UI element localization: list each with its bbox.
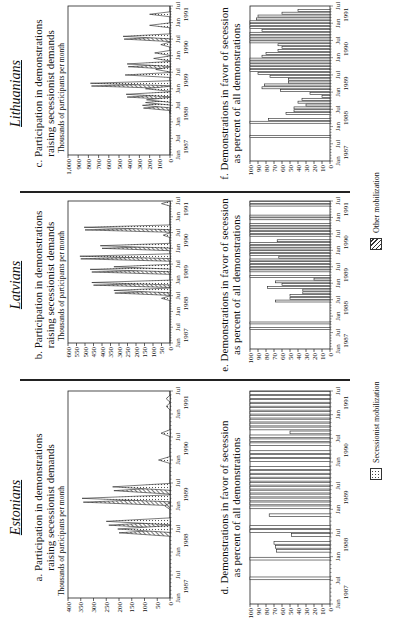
x-tick-label: Jan (334, 599, 342, 609)
percent-bar (250, 403, 330, 406)
x-year-label: 1991 (182, 7, 190, 22)
title-line: b. Participation in demonstrations (32, 195, 44, 375)
secessionist-peak (150, 23, 170, 28)
percent-bar (250, 451, 330, 454)
percent-bar (250, 399, 330, 402)
x-year-label: 1987 (342, 585, 350, 600)
percent-bar (276, 545, 330, 548)
chart-e: 0102030405060708090100JanJulJanJulJanJul… (244, 195, 354, 375)
x-tick-label: Jul (334, 230, 342, 238)
y-tick-label: 300 (116, 347, 124, 358)
plot-frame (68, 391, 170, 598)
x-tick-label: Jul (174, 228, 182, 236)
percent-bar (250, 61, 330, 63)
percent-bar (250, 67, 330, 69)
y-tick-label: 150 (141, 347, 149, 358)
secessionist-peak (154, 56, 170, 61)
percent-bar (250, 474, 330, 477)
legend-item-secessionist: Secessionist mobilization (370, 381, 382, 480)
x-tick-label: Jan (174, 243, 182, 253)
y-tick-label: 250 (103, 602, 111, 613)
y-tick-label: 300 (136, 159, 144, 170)
y-tick-label: 30 (303, 353, 311, 361)
x-tick-label: Jul (334, 36, 342, 44)
y-tick-label: 70 (271, 608, 279, 616)
x-year-label: 1988 (182, 296, 190, 311)
percent-bar (294, 110, 330, 112)
x-tick-label: Jan (174, 501, 182, 511)
y-tick-label: 100 (247, 608, 255, 619)
percent-bar (250, 322, 330, 324)
chart-a-title: a. Participation in demonstrations raisi… (32, 385, 56, 630)
x-year-label: 1987 (182, 579, 190, 594)
x-tick-label: Jul (174, 292, 182, 300)
panel-lithuanians: Lithuanians c. Participation in demonstr… (0, 0, 360, 187)
chart-f: 0102030405060708090100JanJulJanJulJanJul… (244, 0, 354, 187)
x-tick-label: Jan (334, 245, 342, 255)
x-tick-label: Jul (334, 296, 342, 304)
percent-bar (264, 84, 330, 86)
percent-bar (262, 87, 330, 89)
secessionist-peak (166, 395, 170, 402)
x-tick-label: Jul (334, 576, 342, 584)
percent-bar (250, 470, 330, 473)
secessionist-peak (161, 42, 170, 47)
y-tick-label: 40 (295, 353, 303, 361)
y-tick-label: 100 (247, 353, 255, 364)
x-year-label: 1990 (182, 441, 190, 456)
percent-bar (250, 38, 330, 40)
x-tick-label: Jul (174, 101, 182, 109)
panel-divider (20, 379, 350, 381)
x-tick-label: Jul (174, 571, 182, 579)
percent-bar (250, 459, 330, 462)
y-tick-label: 50 (154, 602, 162, 610)
percent-bar (250, 201, 330, 203)
y-tick-label: 20 (311, 353, 319, 361)
y-tick-label: 300 (90, 602, 98, 613)
x-year-label: 1991 (182, 395, 190, 410)
legend-label: Other mobilization (372, 172, 381, 233)
y-tick-label: 100 (247, 165, 255, 176)
x-year-label: 1990 (342, 235, 350, 250)
percent-bar (292, 534, 330, 537)
percent-bar (250, 267, 330, 269)
y-tick-label: 700 (95, 159, 103, 170)
y-tick-label: 1,000 (65, 159, 73, 175)
y-tick-label: 70 (271, 353, 279, 361)
percent-bar (250, 245, 330, 247)
percent-bar (250, 251, 330, 253)
percent-bar (250, 411, 330, 414)
y-tick-label: 90 (255, 608, 263, 616)
y-tick-label: 800 (85, 159, 93, 170)
percent-bar (250, 136, 330, 138)
x-tick-label: Jul (174, 35, 182, 43)
x-tick-label: Jan (174, 84, 182, 94)
y-tick-label: 40 (295, 608, 303, 616)
x-tick-label: Jan (334, 156, 342, 166)
x-tick-label: Jan (334, 278, 342, 288)
secessionist-peak (162, 201, 171, 206)
title-line: raising secessionist demands (44, 0, 56, 187)
x-tick-label: Jan (334, 457, 342, 467)
chart-e-title: e. Demonstrations in favor of secession … (218, 195, 242, 375)
percent-bar (266, 52, 330, 54)
y-tick-label: 200 (146, 159, 154, 170)
percent-bar (250, 121, 330, 123)
x-year-label: 1990 (182, 40, 190, 55)
secessionist-peak (169, 108, 170, 113)
x-year-label: 1987 (182, 139, 190, 154)
percent-bar (250, 530, 330, 533)
figure: Estonians a. Participation in demonstrat… (0, 0, 399, 630)
x-tick-label: Jan (334, 344, 342, 354)
percent-bar (250, 443, 330, 446)
x-tick-label: Jan (174, 455, 182, 465)
percent-bar (250, 482, 330, 485)
country-title: Estonians (8, 385, 24, 630)
title-line: a. Participation in demonstrations (32, 385, 44, 630)
percent-bar (276, 300, 330, 302)
percent-bar (250, 577, 330, 580)
percent-bar (288, 81, 330, 83)
x-tick-label: Jul (174, 2, 182, 10)
x-year-label: 1991 (342, 202, 350, 217)
title-line: raising secessionist demands (44, 195, 56, 375)
